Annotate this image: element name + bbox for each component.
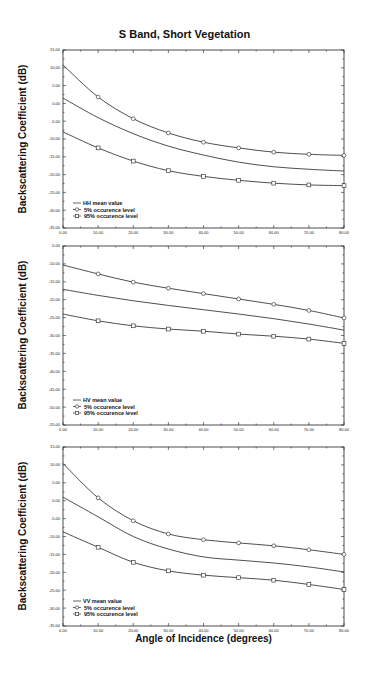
y-tick-label: 5.00 <box>52 480 61 485</box>
x-tick-label: 60.00 <box>269 230 280 235</box>
y-tick-label: -35.00 <box>49 623 61 628</box>
series-line <box>63 497 344 572</box>
y-tick-label: -30.00 <box>49 333 61 338</box>
square-marker <box>96 545 100 549</box>
y-tick-label: -15.00 <box>49 279 61 284</box>
chart-hv: 0.0010.0020.0030.0040.0050.0060.0070.008… <box>49 243 350 432</box>
square-marker <box>202 329 206 333</box>
square-marker <box>237 178 241 182</box>
circle-marker <box>237 541 241 545</box>
y-tick-label: -20.00 <box>49 172 61 177</box>
square-marker-icon <box>75 214 78 217</box>
square-marker <box>237 332 241 336</box>
square-marker <box>307 583 311 587</box>
circle-marker-icon <box>75 606 78 609</box>
x-axis-label: Angle of Incidence (degrees) <box>63 633 344 644</box>
circle-marker <box>272 150 276 154</box>
x-tick-label: 10.00 <box>93 230 104 235</box>
circle-marker <box>131 280 135 284</box>
y-tick-label: 10.00 <box>50 462 61 467</box>
legend-entry: 5% occurence level <box>84 207 135 213</box>
square-marker-icon <box>75 612 78 615</box>
x-tick-label: 60.00 <box>269 427 280 432</box>
square-marker <box>131 159 135 163</box>
circle-marker <box>342 553 346 557</box>
y-tick-label: -15.00 <box>49 154 61 159</box>
circle-marker <box>307 548 311 552</box>
y-tick-label: 0.00 <box>52 101 61 106</box>
series-line <box>63 98 344 171</box>
circle-marker <box>166 286 170 290</box>
x-tick-label: 10.00 <box>93 427 104 432</box>
legend-entry: 95% occurence level <box>84 611 138 617</box>
square-marker <box>272 334 276 338</box>
x-tick-label: 20.00 <box>128 427 139 432</box>
circle-marker <box>307 309 311 313</box>
chart-hh: 0.0010.0020.0030.0040.0050.0060.0070.008… <box>49 47 350 235</box>
square-marker <box>342 341 346 345</box>
y-tick-label: -10.00 <box>49 534 61 539</box>
legend-entry: HV mean value <box>83 397 122 403</box>
square-marker <box>96 146 100 150</box>
square-marker-icon <box>75 411 78 414</box>
legend-entry: HH mean value <box>83 200 122 206</box>
y-tick-label: 0.00 <box>52 498 61 503</box>
square-marker <box>166 169 170 173</box>
legend-entry: 5% occurence level <box>84 605 135 611</box>
square-marker <box>237 576 241 580</box>
x-tick-label: 0.00 <box>59 230 68 235</box>
x-tick-label: 30.00 <box>163 230 174 235</box>
square-marker <box>202 174 206 178</box>
legend: VV mean value5% occurence level95% occur… <box>73 598 138 617</box>
square-marker <box>307 183 311 187</box>
square-marker <box>272 181 276 185</box>
x-tick-label: 70.00 <box>304 230 315 235</box>
square-marker <box>307 337 311 341</box>
y-tick-label: -30.00 <box>49 606 61 611</box>
series-line <box>63 314 344 343</box>
circle-marker <box>202 292 206 296</box>
square-marker <box>342 184 346 188</box>
circle-marker <box>202 538 206 542</box>
y-tick-label: -55.00 <box>49 422 61 427</box>
x-tick-label: 50.00 <box>234 427 245 432</box>
square-marker <box>131 324 135 328</box>
x-tick-label: 40.00 <box>198 427 209 432</box>
y-tick-label: -25.00 <box>49 315 61 320</box>
square-marker <box>131 560 135 564</box>
circle-marker <box>166 532 170 536</box>
square-marker <box>342 588 346 592</box>
y-tick-label: 15.00 <box>50 47 61 52</box>
y-tick-label: -25.00 <box>49 190 61 195</box>
y-tick-label: -35.00 <box>49 225 61 230</box>
x-tick-label: 30.00 <box>163 427 174 432</box>
plot-canvas: 0.0010.0020.0030.0040.0050.0060.0070.008… <box>0 0 369 676</box>
y-tick-label: -10.00 <box>49 261 61 266</box>
square-marker <box>96 319 100 323</box>
y-tick-label: -25.00 <box>49 588 61 593</box>
legend-entry: 95% occurence level <box>84 410 138 416</box>
x-tick-label: 40.00 <box>198 230 209 235</box>
legend: HH mean value5% occurence level95% occur… <box>73 200 138 219</box>
y-tick-label: 5.00 <box>52 83 61 88</box>
x-tick-label: 0.00 <box>59 427 68 432</box>
x-tick-label: 80.00 <box>339 427 350 432</box>
circle-marker <box>166 131 170 135</box>
y-tick-label: -5.00 <box>51 516 61 521</box>
y-tick-label: -20.00 <box>49 297 61 302</box>
circle-marker <box>272 544 276 548</box>
y-tick-label: -15.00 <box>49 552 61 557</box>
circle-marker <box>342 316 346 320</box>
circle-marker <box>96 95 100 99</box>
legend-entry: 5% occurence level <box>84 404 135 410</box>
y-tick-label: -5.00 <box>51 243 61 248</box>
square-marker <box>166 569 170 573</box>
circle-marker <box>237 297 241 301</box>
y-tick-label: -45.00 <box>49 387 61 392</box>
circle-marker <box>202 140 206 144</box>
circle-marker <box>237 146 241 150</box>
chart-vv: 0.0010.0020.0030.0040.0050.0060.0070.008… <box>49 444 350 633</box>
y-tick-label: -20.00 <box>49 570 61 575</box>
square-marker <box>202 573 206 577</box>
y-tick-label: -30.00 <box>49 208 61 213</box>
